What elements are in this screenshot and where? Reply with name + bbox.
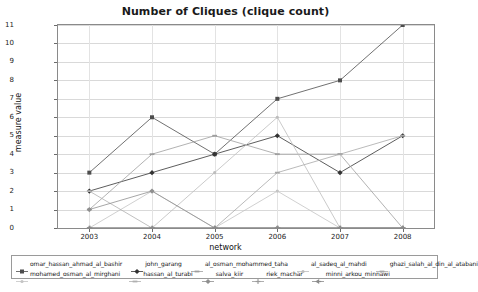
legend-item[interactable]: salva_kiir	[202, 268, 243, 278]
legend-marker-square	[16, 260, 28, 267]
legend-marker-diamond	[202, 270, 214, 277]
data-point-dash	[194, 270, 199, 272]
plot-area	[57, 24, 435, 229]
y-axis-title: measure value	[14, 63, 23, 183]
legend-item[interactable]: al_osman_mohammed_taha	[191, 258, 288, 268]
legend-item[interactable]: john_garang	[131, 258, 182, 268]
x-tick-label: 2003	[69, 233, 109, 241]
y-tick-label: 6	[0, 114, 14, 121]
data-point-dot	[276, 116, 279, 119]
data-point-diamond	[275, 133, 280, 138]
data-point-dot	[301, 269, 304, 272]
chart-legend: omar_hassan_ahmad_al_bashirjohn_garangal…	[11, 255, 438, 279]
legend-marker-dot	[297, 260, 309, 267]
data-point-dash	[275, 153, 280, 155]
x-tick-label: 2007	[320, 233, 360, 241]
y-tick-label: 1	[0, 206, 14, 213]
legend-item[interactable]: omar_hassan_ahmad_al_bashir	[16, 258, 122, 268]
y-tick-label: 10	[0, 40, 14, 47]
x-tick-mark	[152, 229, 153, 232]
y-tick-label: 0	[0, 225, 14, 232]
data-point-square	[150, 115, 154, 119]
x-tick-label: 2008	[383, 233, 423, 241]
data-point-square	[275, 97, 279, 101]
legend-label: ghazi_salah_al_din_al_atabani	[390, 260, 478, 267]
data-point-dot	[213, 171, 216, 174]
legend-row: omar_hassan_ahmad_al_bashirjohn_garangal…	[16, 258, 433, 268]
data-point-square	[87, 171, 91, 175]
data-point-dot	[276, 189, 279, 192]
legend-label: john_garang	[145, 260, 182, 267]
legend-marker-dash	[376, 260, 388, 267]
legend-label: al_osman_mohammed_taha	[205, 260, 288, 267]
data-point-square	[338, 78, 342, 82]
legend-marker-dot	[16, 270, 28, 277]
data-point-plus	[256, 279, 261, 284]
series-line	[89, 136, 402, 228]
legend-row: mohamed_osman_al_mirghanihassan_al_turab…	[16, 268, 433, 278]
y-tick-label: 11	[0, 22, 14, 29]
legend-item[interactable]: ghazi_salah_al_din_al_atabani	[376, 258, 478, 268]
gridline-horizontal	[58, 228, 434, 229]
legend-label: mohamed_osman_al_mirghani	[30, 270, 120, 277]
y-tick-label: 2	[0, 188, 14, 195]
y-tick-label: 5	[0, 132, 14, 139]
legend-item[interactable]: mohamed_osman_al_mirghani	[16, 268, 120, 278]
legend-item[interactable]: al_sadeq_al_mahdi	[297, 258, 367, 268]
x-tick-label: 2004	[132, 233, 172, 241]
data-point-dash	[212, 135, 217, 137]
series-line	[89, 191, 402, 228]
legend-item[interactable]: riek_machar	[252, 268, 303, 278]
data-point-arrow	[315, 279, 321, 284]
data-point-dash	[133, 280, 138, 282]
y-tick-label: 7	[0, 95, 14, 102]
series-layer	[58, 25, 434, 228]
data-point-dash	[87, 190, 92, 192]
x-tick-mark	[403, 229, 404, 232]
legend-item[interactable]: hassan_al_turabi	[129, 268, 193, 278]
legend-marker-dash	[191, 260, 203, 267]
legend-marker-dash	[129, 270, 141, 277]
data-point-diamond	[149, 188, 154, 193]
x-tick-mark	[89, 229, 90, 232]
y-tick-label: 8	[0, 77, 14, 84]
x-tick-label: 2005	[195, 233, 235, 241]
data-point-dash	[400, 135, 405, 137]
series-line	[89, 136, 402, 191]
y-tick-label: 9	[0, 58, 14, 65]
data-point-dash	[150, 153, 155, 155]
y-tick-label: 4	[0, 151, 14, 158]
x-axis-title: network	[0, 243, 451, 252]
x-tick-mark	[340, 229, 341, 232]
legend-label: salva_kiir	[216, 270, 243, 277]
x-tick-label: 2006	[257, 233, 297, 241]
x-tick-mark	[215, 229, 216, 232]
legend-marker-plus	[252, 270, 264, 277]
data-point-diamond	[205, 278, 210, 283]
legend-marker-diamond	[131, 260, 143, 267]
data-point-dash	[379, 270, 384, 272]
legend-label: al_sadeq_al_mahdi	[311, 260, 367, 267]
data-point-diamond	[337, 170, 342, 175]
data-point-dash	[338, 153, 343, 155]
x-tick-mark	[277, 229, 278, 232]
data-point-dash	[275, 172, 280, 174]
legend-marker-arrow	[312, 270, 324, 277]
series-line	[89, 25, 402, 173]
data-point-square	[401, 24, 405, 27]
data-point-diamond	[149, 170, 154, 175]
legend-label: omar_hassan_ahmad_al_bashir	[30, 260, 122, 267]
y-tick-label: 3	[0, 169, 14, 176]
data-point-dot	[20, 279, 23, 282]
legend-label: hassan_al_turabi	[143, 270, 193, 277]
